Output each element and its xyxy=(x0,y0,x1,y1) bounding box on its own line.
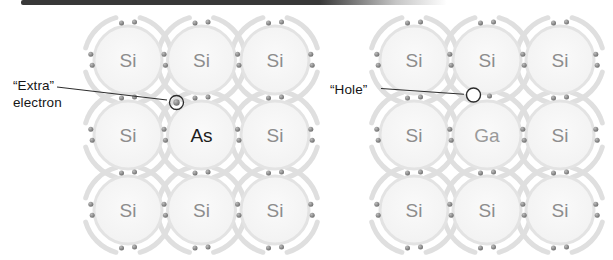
extra-electron-label-line2: electron xyxy=(13,95,62,112)
electron-dot xyxy=(593,52,598,57)
electron-dot xyxy=(132,20,137,25)
electron-dot xyxy=(449,213,454,218)
extra-electron-label-line1: “Extra” xyxy=(13,78,62,95)
figure-semiconductor-doping: SiSiSiSiAsSiSiSiSiSiSiSiSiGaSiSiSiSi “Ex… xyxy=(0,0,613,260)
hole-label-line1: “Hole” xyxy=(330,82,367,99)
electron-dot xyxy=(310,63,315,68)
hole-circle xyxy=(467,88,481,102)
electron-dot xyxy=(236,63,241,68)
atom-label-Si: Si xyxy=(406,50,423,71)
electron-dot xyxy=(90,63,95,68)
electron-dot xyxy=(520,52,525,57)
electron-dot xyxy=(522,63,527,68)
atom-label-Si: Si xyxy=(120,125,137,146)
electron-dot xyxy=(206,245,211,250)
electron-dot xyxy=(376,63,381,68)
electron-dot xyxy=(193,95,198,100)
atom-label-Si: Si xyxy=(552,50,569,71)
electron-dot xyxy=(447,127,452,132)
electron-dot xyxy=(193,20,198,25)
electron-dot xyxy=(491,20,496,25)
atom-label-Si: Si xyxy=(552,200,569,221)
electron-dot xyxy=(308,202,313,207)
electron-dot xyxy=(235,202,240,207)
electron-dot xyxy=(206,20,211,25)
atom-label-Si: Si xyxy=(267,50,284,71)
electron-dot xyxy=(374,52,379,57)
electron-dot xyxy=(564,245,569,250)
electron-dot xyxy=(487,94,492,99)
electron-dot xyxy=(478,245,483,250)
electron-dot xyxy=(551,170,556,175)
electron-dot xyxy=(310,213,315,218)
electron-dot xyxy=(193,170,198,175)
atom-label-Si: Si xyxy=(120,50,137,71)
electron-dot xyxy=(119,20,124,25)
electron-dot xyxy=(266,245,271,250)
electron-dot xyxy=(119,95,124,100)
electron-dot xyxy=(564,20,569,25)
electron-dot xyxy=(449,63,454,68)
electron-dot xyxy=(279,245,284,250)
electron-dot xyxy=(418,170,423,175)
electron-dot xyxy=(88,52,93,57)
electron-dot xyxy=(193,245,198,250)
atom-label-Si: Si xyxy=(193,200,210,221)
electron-dot xyxy=(405,170,410,175)
electron-dot xyxy=(449,138,454,143)
electron-dot xyxy=(405,95,410,100)
electron-dot xyxy=(374,127,379,132)
electron-dot xyxy=(551,95,556,100)
electron-dot xyxy=(376,213,381,218)
electron-dot xyxy=(90,138,95,143)
atom-label-Si: Si xyxy=(267,200,284,221)
electron-dot xyxy=(478,20,483,25)
electron-dot xyxy=(551,245,556,250)
electron-dot xyxy=(279,20,284,25)
lattice-svg: SiSiSiSiAsSiSiSiSiSiSiSiSiGaSiSiSiSi xyxy=(0,0,613,260)
atom-label-Si: Si xyxy=(120,200,137,221)
electron-dot xyxy=(236,213,241,218)
electron-dot xyxy=(564,170,569,175)
electron-dot xyxy=(162,127,167,132)
electron-dot xyxy=(418,245,423,250)
electron-dot xyxy=(266,20,271,25)
electron-dot xyxy=(90,213,95,218)
electron-dot xyxy=(418,20,423,25)
electron-dot xyxy=(595,138,600,143)
electron-dot xyxy=(595,63,600,68)
electron-dot xyxy=(478,170,483,175)
atom-label-Si: Si xyxy=(267,125,284,146)
atom-label-Si: Si xyxy=(479,200,496,221)
electron-dot xyxy=(593,202,598,207)
electron-dot xyxy=(374,202,379,207)
electron-dot xyxy=(163,138,168,143)
p-type-lattice: SiSiSiSiGaSiSiSiSi xyxy=(372,18,603,253)
atom-label-As: As xyxy=(190,125,212,146)
electron-dot xyxy=(119,170,124,175)
electron-dot xyxy=(522,138,527,143)
atom-label-Si: Si xyxy=(552,125,569,146)
electron-dot xyxy=(88,202,93,207)
electron-dot xyxy=(132,170,137,175)
electron-dot xyxy=(418,95,423,100)
atom-label-Si: Si xyxy=(406,125,423,146)
electron-dot xyxy=(376,138,381,143)
electron-dot xyxy=(520,127,525,132)
electron-dot xyxy=(236,138,241,143)
electron-dot xyxy=(593,127,598,132)
electron-dot xyxy=(405,245,410,250)
electron-dot xyxy=(595,213,600,218)
electron-dot xyxy=(491,170,496,175)
electron-dot xyxy=(162,202,167,207)
electron-dot xyxy=(266,95,271,100)
atom-label-Si: Si xyxy=(406,200,423,221)
atom-label-Si: Si xyxy=(193,50,210,71)
electron-dot xyxy=(447,52,452,57)
electron-dot xyxy=(206,170,211,175)
electron-dot xyxy=(308,52,313,57)
electron-dot xyxy=(162,52,167,57)
electron-dot xyxy=(235,52,240,57)
electron-dot xyxy=(522,213,527,218)
hole-label: “Hole” xyxy=(330,82,367,99)
